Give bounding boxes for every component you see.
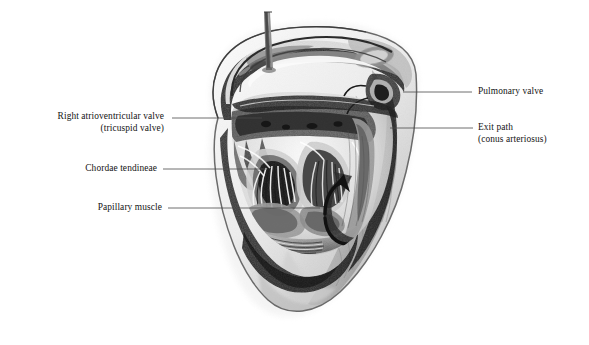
label-papillary-muscle: Papillary muscle bbox=[98, 202, 162, 214]
label-pulmonary-line1: Pulmonary valve bbox=[478, 86, 543, 96]
label-exit-path-line2: (conus arteriosus) bbox=[478, 134, 547, 146]
label-chordae-line1: Chordae tendineae bbox=[85, 163, 157, 173]
figure-root: Right atrioventricular valve (tricuspid … bbox=[0, 0, 589, 345]
label-exit-path: Exit path (conus arteriosus) bbox=[478, 122, 547, 145]
label-exit-path-line1: Exit path bbox=[478, 122, 513, 132]
label-tricuspid-line1: Right atrioventricular valve bbox=[58, 111, 164, 121]
label-tricuspid-valve: Right atrioventricular valve (tricuspid … bbox=[58, 111, 164, 134]
label-chordae-tendineae: Chordae tendineae bbox=[85, 163, 157, 175]
label-papillary-line1: Papillary muscle bbox=[98, 202, 162, 212]
label-tricuspid-line2: (tricuspid valve) bbox=[58, 123, 164, 135]
label-pulmonary-valve: Pulmonary valve bbox=[478, 86, 543, 98]
